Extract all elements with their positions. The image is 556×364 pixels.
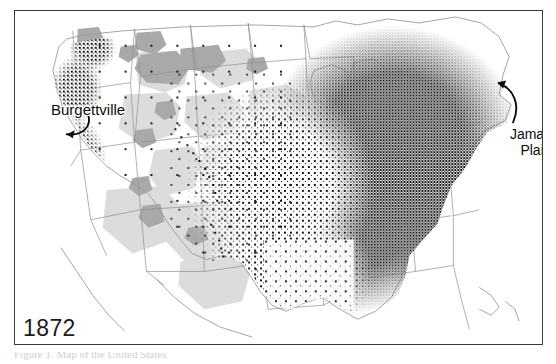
map-panel[interactable]: 1872 Burgettville Jamaica Plain [14, 10, 543, 345]
us-dot-density-map [15, 11, 542, 344]
jamaica-plain-label: Jamaica Plain [507, 127, 543, 158]
figure-caption-strip: Figure 1. Map of the United States [14, 352, 414, 364]
figure-container: 1872 Burgettville Jamaica Plain Figure 1… [0, 0, 556, 364]
figure-caption: Figure 1. Map of the United States [14, 352, 166, 360]
year-label: 1872 [23, 317, 76, 340]
jamaica-plain-label-line1: Jamaica [510, 126, 543, 142]
burgettville-label: Burgettville [51, 102, 125, 118]
jamaica-plain-label-line2: Plain [520, 142, 543, 158]
dots-texas-gulf [264, 240, 354, 310]
